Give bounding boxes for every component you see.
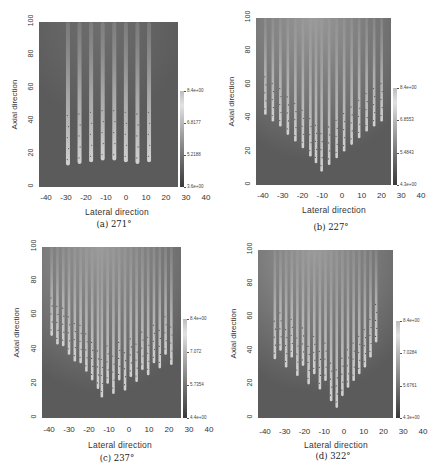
scatterer-dot [135,359,136,360]
scatterer-dot [118,342,119,343]
x-axis-label: Lateral direction [304,440,368,450]
x-tick-label: -30 [277,191,289,200]
bright-stripe [319,250,322,389]
scatterer-dot [336,401,337,402]
scatterer-dot [382,91,383,92]
scatterer-dot [359,344,360,345]
scatterer-dot [62,340,63,341]
scatterer-dot [148,134,149,135]
colorbar-tick [184,91,186,92]
scatterer-dot [90,112,91,113]
scatterer-dot [291,351,292,352]
scatterer-dot [153,325,154,326]
scatterer-dot [367,101,368,102]
scatterer-dot [358,336,359,337]
bright-stripe [309,18,312,157]
scatterer-dot [273,91,274,92]
x-tick-label: -20 [299,427,311,436]
scatterer-dot [159,330,160,331]
scatterer-dot [288,104,289,105]
scatterer-dot [91,358,92,359]
scatterer-dot [294,119,295,120]
scatterer-dot [124,368,125,369]
y-tick-label: 60 [246,309,253,323]
scatterer-dot [324,374,325,375]
scatterer-dot [359,124,360,125]
scatterer-dot [364,329,365,330]
scatterer-dot [352,114,353,115]
scatterer-dot [337,377,338,378]
bright-stripe [79,247,82,363]
scatterer-dot [166,324,167,325]
scatterer-dot [364,361,365,362]
scatterer-dot [153,357,154,358]
scatterer-dot [50,329,51,330]
scatterer-dot [274,353,275,354]
x-tick-label: 30 [399,427,408,436]
scatterer-dot [264,108,265,109]
bright-stripe [296,250,299,376]
scatterer-dot [369,319,370,320]
scatterer-dot [126,145,127,146]
scatterer-dot [272,99,273,100]
scatterer-dot [126,123,127,124]
scatterer-dot [286,353,287,354]
scatterer-dot [365,353,366,354]
y-tick-label: 40 [246,342,253,356]
scatterer-dot [130,354,131,355]
x-axis-label: Lateral direction [88,440,152,450]
scatterer-dot [69,340,70,341]
x-tick-label: 0 [340,191,344,200]
colorbar-tick [397,120,399,121]
scatterer-dot [287,112,288,113]
scatterer-dot [148,156,149,157]
scatterer-dot [294,103,295,104]
scatterer-dot [74,355,75,356]
scatterer-dot [106,345,107,346]
colorbar-tick [184,187,186,188]
scatterer-dot [350,138,351,139]
colorbar-tick-label: 5.7354 [190,382,204,387]
bright-stripe [380,18,383,122]
scatterer-dot [337,128,338,129]
scatterer-dot [113,363,114,364]
scatterer-dot [328,126,329,127]
colorbar-tick-label: 7.0284 [403,350,417,355]
scatterer-dot [106,361,107,362]
scatterer-dot [118,358,119,359]
y-tick-label: 20 [30,375,37,389]
scatterer-dot [98,358,99,359]
scatterer-dot [63,316,64,317]
scatterer-dot [286,337,287,338]
scatterer-dot [52,305,53,306]
x-tick-label: 20 [377,191,386,200]
scatterer-dot [141,348,142,349]
scatterer-dot [359,360,360,361]
scatterer-dot [376,328,377,329]
scatterer-dot [344,137,345,138]
scatterer-dot [90,156,91,157]
scatterer-dot [106,377,107,378]
scatterer-dot [337,393,338,394]
bright-stripe [307,250,310,384]
bright-stripe [130,247,133,377]
scatterer-dot [264,76,265,77]
scatterer-dot [279,344,280,345]
scatterer-dot [352,374,353,375]
scatterer-dot [314,344,315,345]
scatterer-dot [103,121,104,122]
scatterer-dot [164,332,165,333]
scatterer-dot [136,135,137,136]
scatterer-dot [57,314,58,315]
scatterer-dot [376,312,377,313]
x-tick-label: 30 [182,193,191,202]
bright-stripe [302,18,305,148]
x-tick-label: -20 [83,425,95,434]
y-tick-label: 60 [27,80,34,94]
scatterer-dot [358,352,359,353]
scatterer-dot [69,324,70,325]
scatterer-dot [382,107,383,108]
colorbar-tick [184,123,186,124]
scatterer-dot [153,341,154,342]
scatterer-dot [275,345,276,346]
